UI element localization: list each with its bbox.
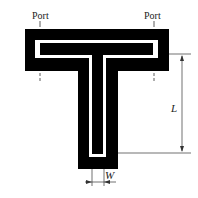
t-junction-diagram: Port Port L W (0, 0, 198, 198)
l-arrow-top-icon (180, 55, 184, 61)
l-label: L (170, 102, 177, 114)
l-arrow-bottom-icon (180, 146, 184, 152)
w-label: W (105, 169, 115, 181)
port-right-label: Port (144, 10, 161, 21)
diagram-svg: Port Port L W (0, 0, 198, 198)
w-arrow-left-icon (86, 180, 92, 184)
port-left-label: Port (32, 10, 49, 21)
